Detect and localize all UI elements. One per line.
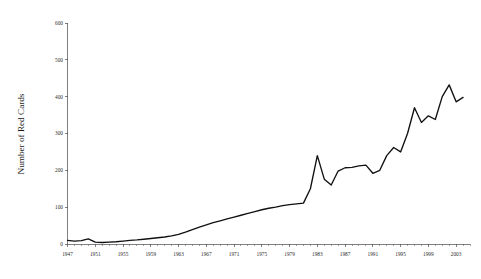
line-chart: 0100200300400500600 19471951195519591963…: [0, 0, 481, 279]
x-tick-label-1971: 1971: [229, 251, 240, 257]
x-tick-label-1995: 1995: [395, 251, 406, 257]
y-tick-label-200: 200: [55, 167, 63, 173]
x-tick-label-1975: 1975: [257, 251, 268, 257]
x-tick-label-2003: 2003: [451, 251, 462, 257]
y-tick-label-300: 300: [55, 130, 63, 136]
y-tick-label-0: 0: [60, 241, 63, 247]
x-tick-label-1991: 1991: [368, 251, 379, 257]
y-tick-label-400: 400: [55, 94, 63, 100]
y-tick-label-500: 500: [55, 57, 63, 63]
x-tick-label-1983: 1983: [312, 251, 323, 257]
x-tick-label-1951: 1951: [90, 251, 101, 257]
x-tick-label-1979: 1979: [284, 251, 295, 257]
chart-container: 0100200300400500600 19471951195519591963…: [0, 0, 481, 279]
y-tick-label-100: 100: [55, 204, 63, 210]
y-tick-label-600: 600: [55, 20, 63, 26]
x-tick-label-1987: 1987: [340, 251, 351, 257]
x-tick-label-1959: 1959: [145, 251, 156, 257]
x-tick-label-1947: 1947: [62, 251, 73, 257]
x-tick-label-1955: 1955: [118, 251, 129, 257]
x-tick-label-1963: 1963: [173, 251, 184, 257]
x-tick-label-1967: 1967: [201, 251, 212, 257]
y-axis-title: Number of Red Cards: [16, 93, 26, 174]
x-tick-label-1999: 1999: [423, 251, 434, 257]
chart-background: [0, 0, 481, 279]
